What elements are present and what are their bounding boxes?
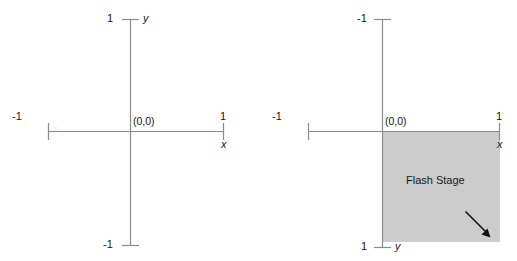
- right-diagram: -1 1 y -1 1 x (0,0) Flash Stage: [259, 0, 517, 261]
- y-top-tick-label: 1: [107, 13, 113, 24]
- x-min-tick-label: -1: [272, 111, 282, 122]
- y-axis-label: y: [143, 13, 149, 24]
- y-bottom-tick-label: -1: [103, 239, 113, 250]
- x-max-tick-label: 1: [220, 111, 226, 122]
- origin-label: (0,0): [133, 116, 155, 127]
- left-axes-graphic: [0, 0, 258, 261]
- coordinate-systems-figure: 1 y -1 -1 1 x (0,0): [0, 0, 517, 261]
- scan-speck: [55, 127, 56, 128]
- y-bottom-tick-label: 1: [361, 241, 367, 252]
- flash-stage-rect: [383, 132, 500, 242]
- x-min-tick-label: -1: [12, 111, 22, 122]
- x-axis-label: x: [497, 139, 503, 150]
- y-axis-label: y: [395, 241, 401, 252]
- x-axis-label: x: [221, 139, 227, 150]
- origin-label: (0,0): [385, 116, 407, 127]
- flash-stage-label: Flash Stage: [406, 174, 465, 186]
- left-diagram: 1 y -1 -1 1 x (0,0): [0, 0, 258, 261]
- right-axes-graphic: [259, 0, 517, 261]
- y-top-tick-label: -1: [357, 13, 367, 24]
- x-max-tick-label: 1: [496, 111, 502, 122]
